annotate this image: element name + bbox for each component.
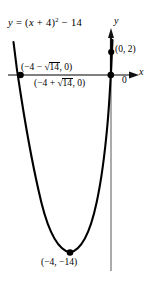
y-axis-label: y <box>114 16 118 26</box>
radical-sign: √14 <box>57 78 72 89</box>
point-vertex <box>67 249 74 256</box>
origin-label: 0 <box>122 76 127 86</box>
radical-sign: √14 <box>44 62 59 73</box>
equation-equals: = <box>16 17 22 28</box>
equation-lhs: y <box>8 17 13 28</box>
equation-exponent: 2 <box>55 16 59 23</box>
graph-canvas <box>0 0 151 283</box>
x-axis-label: x <box>139 67 143 77</box>
vertex-label: (−4, −14) <box>41 258 77 268</box>
left-root-prefix: (−4 − <box>21 62 44 72</box>
equation-variable: x <box>29 17 34 28</box>
left-x-intercept-label: (−4 − √14, 0) <box>21 62 72 73</box>
y-intercept-label: (0, 2) <box>115 45 136 55</box>
left-root-radicand: 14 <box>49 62 60 73</box>
left-root-suffix: , 0) <box>60 62 73 72</box>
point-left-x-intercept <box>17 72 24 79</box>
equation-plus: + <box>37 17 43 28</box>
equation-label: y = (x + 4)2 − 14 <box>8 18 82 29</box>
equation-minus: − <box>62 17 68 28</box>
right-root-prefix: (−4 + <box>34 78 57 88</box>
x-axis-arrowhead <box>129 72 139 79</box>
point-right-x-intercept <box>108 72 115 79</box>
point-y-intercept <box>108 49 114 55</box>
right-x-intercept-label: (−4 + √14, 0) <box>34 78 85 89</box>
right-root-suffix: , 0) <box>73 78 86 88</box>
right-root-radicand: 14 <box>62 78 73 89</box>
equation-k-value: 14 <box>71 17 82 28</box>
parabola-figure: y = (x + 4)2 − 14 y x 0 (0, 2) (−4 − √14… <box>0 0 151 283</box>
